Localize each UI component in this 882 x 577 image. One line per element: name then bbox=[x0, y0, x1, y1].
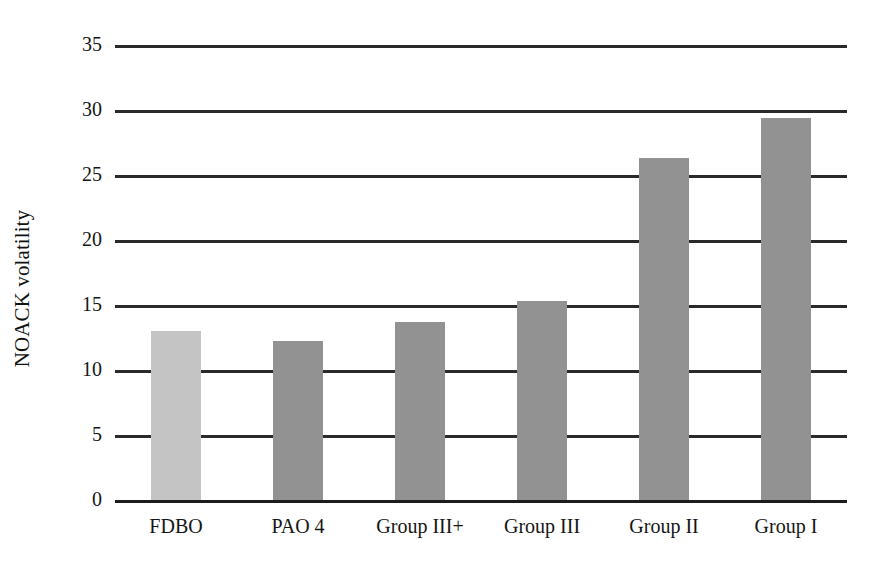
x-tick-label: Group II bbox=[603, 515, 725, 537]
plot-area bbox=[115, 45, 847, 500]
x-tick-label: PAO 4 bbox=[237, 515, 359, 537]
gridline bbox=[115, 175, 847, 178]
y-tick-label: 30 bbox=[42, 99, 102, 119]
gridline bbox=[115, 240, 847, 243]
gridline bbox=[115, 500, 847, 503]
gridline bbox=[115, 370, 847, 373]
bar bbox=[517, 301, 567, 500]
y-axis-tick-labels: 05101520253035 bbox=[30, 0, 102, 577]
y-tick-label: 10 bbox=[42, 359, 102, 379]
y-tick-label: 0 bbox=[42, 489, 102, 509]
y-tick-label: 5 bbox=[42, 424, 102, 444]
y-tick-label: 25 bbox=[42, 164, 102, 184]
bar bbox=[151, 331, 201, 500]
bar bbox=[395, 322, 445, 500]
bar bbox=[273, 341, 323, 500]
x-tick-label: Group III+ bbox=[359, 515, 481, 537]
x-tick-label: FDBO bbox=[115, 515, 237, 537]
gridline bbox=[115, 435, 847, 438]
y-tick-label: 35 bbox=[42, 34, 102, 54]
gridline bbox=[115, 45, 847, 48]
gridline bbox=[115, 305, 847, 308]
bar bbox=[639, 158, 689, 500]
bar bbox=[761, 118, 811, 500]
x-tick-label: Group III bbox=[481, 515, 603, 537]
y-tick-label: 15 bbox=[42, 294, 102, 314]
y-tick-label: 20 bbox=[42, 229, 102, 249]
bar-chart: NOACK volatility 05101520253035 FDBOPAO … bbox=[0, 0, 882, 577]
gridline bbox=[115, 110, 847, 113]
x-tick-label: Group I bbox=[725, 515, 847, 537]
